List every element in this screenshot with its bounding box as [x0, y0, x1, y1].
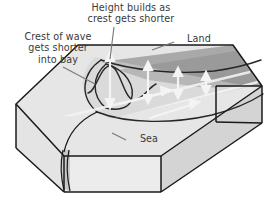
- front-right-face: [64, 156, 161, 192]
- land-label: Land: [176, 33, 222, 44]
- crest-of-wave-label: Crest of wave gets shorter into bay: [6, 31, 110, 65]
- height-builds-label: Height builds as crest gets shorter: [70, 2, 192, 25]
- diagram-canvas: Height builds as crest gets shorter Cres…: [0, 0, 264, 210]
- sea-label: Sea: [128, 133, 170, 144]
- panel-edge-diagonal: [216, 122, 262, 123]
